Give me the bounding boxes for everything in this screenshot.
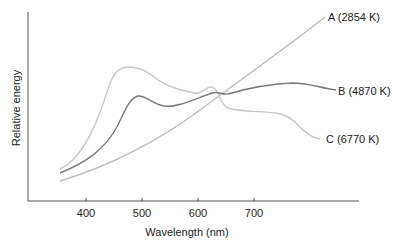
x-tick-label: 500 (133, 207, 151, 219)
curve-b (60, 83, 336, 173)
x-axis-title: Wavelength (nm) (145, 226, 228, 238)
series-label-b: B (4870 K) (338, 85, 391, 97)
spectral-energy-chart: 400 500 600 700 Wavelength (nm) Relative… (0, 0, 396, 248)
x-tick-label: 400 (77, 207, 95, 219)
series-label-a: A (2854 K) (328, 11, 380, 23)
curve-a (60, 17, 325, 181)
x-tick-label: 600 (189, 207, 207, 219)
x-tick-label: 700 (245, 207, 263, 219)
series-label-c: C (6770 K) (326, 133, 379, 145)
y-axis-title: Relative energy (10, 69, 22, 146)
